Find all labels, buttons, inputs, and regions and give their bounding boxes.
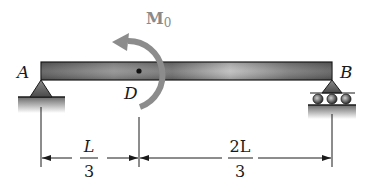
- svg-text:2L: 2L: [230, 137, 251, 156]
- beam: [41, 62, 332, 80]
- roller-icon: [327, 94, 337, 104]
- point-d-marker: [136, 68, 141, 73]
- label-d: D: [123, 83, 138, 103]
- dimension-l-over-3: L 3: [80, 137, 98, 181]
- svg-text:L: L: [83, 137, 95, 156]
- roller-icon: [313, 94, 323, 104]
- label-a: A: [15, 62, 29, 82]
- roller-icon: [341, 94, 351, 104]
- moment-label: M0: [146, 9, 171, 30]
- svg-text:3: 3: [84, 162, 94, 181]
- dimension-2l-over-3: 2L 3: [228, 137, 253, 181]
- roller-support-b: [308, 80, 356, 119]
- svg-text:3: 3: [235, 162, 245, 181]
- beam-diagram: A B D M0 L 3 2L 3: [0, 0, 367, 190]
- label-b: B: [339, 62, 353, 82]
